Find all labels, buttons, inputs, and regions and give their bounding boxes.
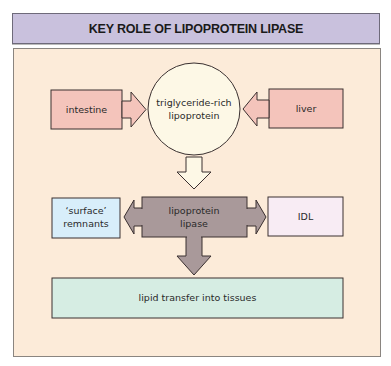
flow-diagram: intestine liver triglyceride-rich lipopr… — [0, 0, 391, 366]
idl-node: IDL — [268, 197, 343, 236]
surface-label-line2: remnants — [63, 218, 108, 229]
trl-label-line1: triglyceride-rich — [156, 97, 231, 108]
lpl-label-line2: lipase — [180, 218, 208, 229]
lpl-down-arrow-icon — [177, 236, 211, 275]
intestine-arrow-icon — [122, 92, 146, 127]
trl-label-line2: lipoprotein — [169, 110, 220, 121]
liver-node: liver — [269, 89, 343, 128]
intestine-label: intestine — [66, 104, 108, 115]
triglyceride-rich-lipoprotein-node: triglyceride-rich lipoprotein — [148, 63, 240, 155]
idl-label: IDL — [298, 211, 314, 222]
lpl-right-arrow-icon — [246, 200, 266, 234]
intestine-node: intestine — [51, 90, 122, 129]
lpl-left-arrow-icon — [124, 200, 143, 234]
surface-remnants-node: ‘surface’ remnants — [52, 198, 120, 238]
lipid-transfer-label: lipid transfer into tissues — [139, 292, 257, 303]
surface-label-line1: ‘surface’ — [65, 205, 106, 216]
lipid-transfer-node: lipid transfer into tissues — [52, 278, 343, 318]
liver-arrow-icon — [243, 92, 269, 126]
lipoprotein-lipase-node: lipoprotein lipase — [142, 197, 247, 237]
down-arrow-icon — [177, 157, 211, 189]
liver-label: liver — [296, 103, 317, 114]
lpl-label-line1: lipoprotein — [169, 205, 220, 216]
